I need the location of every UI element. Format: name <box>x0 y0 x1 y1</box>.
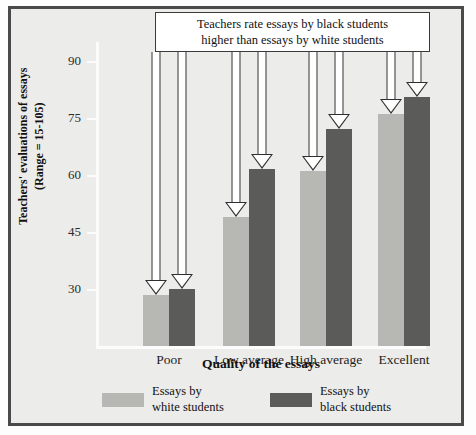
y-axis-tick-label-75: 75 <box>68 110 81 126</box>
arrow-to-poor-white-bar <box>144 52 168 295</box>
arrow-shaft <box>258 52 267 154</box>
arrow-shaft <box>232 52 241 202</box>
arrow-head-fill <box>304 157 322 169</box>
annotation-callout-box: Teachers rate essays by black students h… <box>155 12 430 52</box>
y-axis-tick-label-45: 45 <box>68 224 81 240</box>
arrow-to-low-average-black-bar <box>250 52 274 169</box>
arrow-to-high-average-black-bar <box>327 52 351 129</box>
bar-excellent-white <box>378 114 404 346</box>
arrow-to-high-average-white-bar <box>301 52 325 171</box>
arrow-head-fill <box>330 115 348 127</box>
x-axis-line <box>96 346 426 349</box>
legend-swatch-white-students <box>102 393 144 407</box>
arrow-to-excellent-black-bar <box>405 52 429 97</box>
arrow-head-fill <box>173 275 191 287</box>
callout-line-1: Teachers rate essays by black students <box>197 16 388 32</box>
legend-item-white-students: Essays by white students <box>102 384 224 415</box>
bar-high-average-white <box>300 171 326 346</box>
y-axis-tick-30: 30 <box>87 289 98 291</box>
legend-label-white-line2: white students <box>152 400 224 416</box>
arrow-head-fill <box>227 203 245 215</box>
bar-poor-black <box>169 289 195 346</box>
legend-label-white-students: Essays by white students <box>152 384 224 415</box>
arrow-shaft <box>335 52 344 114</box>
y-axis-title-line1: Teachers' evaluations of essays <box>15 51 31 241</box>
y-axis-title: Teachers' evaluations of essays (Range =… <box>15 51 47 241</box>
figure-root: Teachers' evaluations of essays (Range =… <box>0 0 476 435</box>
arrow-shaft <box>413 52 422 82</box>
y-axis-tick-75: 75 <box>87 118 98 120</box>
arrow-to-low-average-white-bar <box>224 52 248 217</box>
y-axis-title-line2: (Range = 15-105) <box>31 51 47 241</box>
arrow-to-poor-black-bar <box>170 52 194 289</box>
chart-legend: Essays by white students Essays by black… <box>102 384 391 415</box>
y-axis-tick-label-90: 90 <box>68 53 81 69</box>
arrow-head-fill <box>408 83 426 95</box>
legend-item-black-students: Essays by black students <box>270 384 391 415</box>
arrow-head-fill <box>147 281 165 293</box>
legend-label-black-line2: black students <box>320 400 391 416</box>
arrow-to-excellent-white-bar <box>379 52 403 114</box>
x-axis-title: Quality of the essays <box>96 356 426 372</box>
bar-low-average-black <box>249 169 275 346</box>
arrow-shaft <box>387 52 396 99</box>
arrow-shaft <box>178 52 187 274</box>
arrow-shaft <box>152 52 161 280</box>
y-axis-tick-label-60: 60 <box>68 167 81 183</box>
callout-line-2: higher than essays by white students <box>201 32 383 48</box>
legend-swatch-black-students <box>270 393 312 407</box>
y-axis-tick-60: 60 <box>87 175 98 177</box>
legend-label-white-line1: Essays by <box>152 384 224 400</box>
bar-poor-white <box>143 295 169 346</box>
bar-low-average-white <box>223 217 249 346</box>
legend-label-black-students: Essays by black students <box>320 384 391 415</box>
y-axis-line <box>96 42 99 349</box>
bar-excellent-black <box>404 97 430 346</box>
arrow-head-fill <box>253 155 271 167</box>
y-axis-tick-90: 90 <box>87 61 98 63</box>
bar-high-average-black <box>326 129 352 346</box>
arrow-shaft <box>309 52 318 156</box>
y-axis-tick-label-30: 30 <box>68 281 81 297</box>
arrow-head-fill <box>382 100 400 112</box>
legend-label-black-line1: Essays by <box>320 384 391 400</box>
y-axis-tick-45: 45 <box>87 232 98 234</box>
